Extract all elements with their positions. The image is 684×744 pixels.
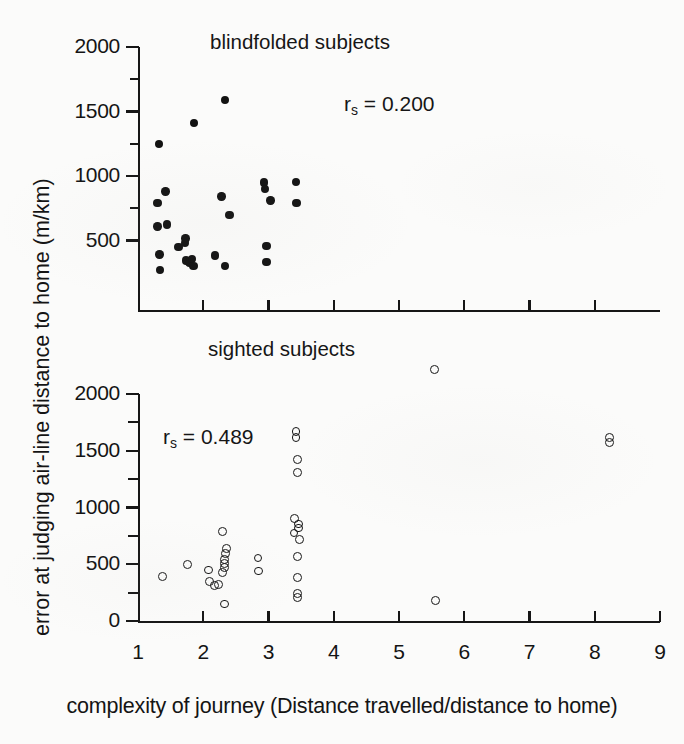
data-point	[218, 527, 227, 536]
x-axis-title: complexity of journey (Distance travelle…	[0, 694, 684, 719]
data-point	[293, 455, 302, 464]
figure-scatter-plots: error at judging air-line distance to ho…	[0, 0, 684, 744]
data-point	[204, 566, 213, 575]
data-point	[431, 596, 440, 605]
data-point	[293, 593, 302, 602]
data-point	[254, 554, 263, 563]
data-point	[430, 365, 439, 374]
data-point	[605, 438, 614, 447]
data-point	[295, 535, 304, 544]
data-point	[293, 468, 302, 477]
data-point	[158, 572, 167, 581]
data-point	[293, 552, 302, 561]
data-points-sighted	[0, 0, 684, 744]
panel-sighted: sighted subjects rs = 0.489 200015001000…	[0, 0, 684, 744]
data-point	[293, 573, 302, 582]
data-point	[183, 560, 192, 569]
data-point	[220, 600, 229, 609]
data-point	[292, 433, 301, 442]
data-point	[254, 567, 263, 576]
data-point	[222, 544, 231, 553]
data-point	[214, 580, 223, 589]
